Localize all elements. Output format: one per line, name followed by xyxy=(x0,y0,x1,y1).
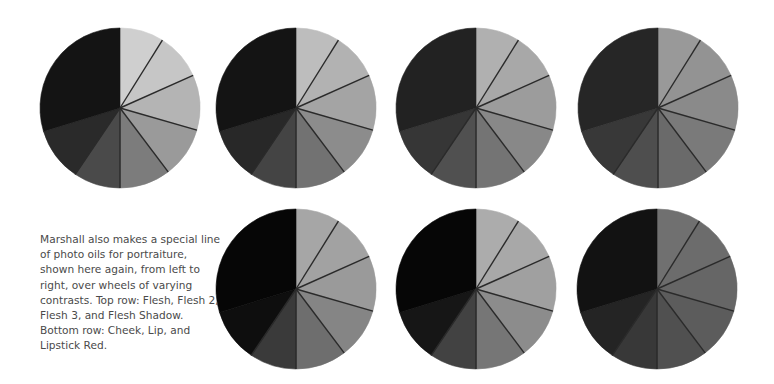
caption-line: Lipstick Red. xyxy=(40,338,212,353)
color-wheel-lipstick-red xyxy=(577,209,737,369)
color-wheel-cheek xyxy=(216,209,376,369)
caption-line: of photo oils for portraiture, xyxy=(40,247,212,262)
caption-line: right, over wheels of varying xyxy=(40,278,212,293)
figure-caption: Marshall also makes a special line of ph… xyxy=(40,232,212,354)
color-wheel-lip xyxy=(396,209,556,369)
color-wheel-flesh-2 xyxy=(216,28,376,188)
caption-line: Marshall also makes a special line xyxy=(40,232,212,247)
caption-line: contrasts. Top row: Flesh, Flesh 2, xyxy=(40,293,212,308)
caption-line: Bottom row: Cheek, Lip, and xyxy=(40,323,212,338)
caption-line: shown here again, from left to xyxy=(40,262,212,277)
caption-line: Flesh 3, and Flesh Shadow. xyxy=(40,308,212,323)
color-wheel-flesh-3 xyxy=(396,28,556,188)
color-wheel-flesh xyxy=(40,28,200,188)
color-wheel-flesh-shadow xyxy=(578,28,738,188)
